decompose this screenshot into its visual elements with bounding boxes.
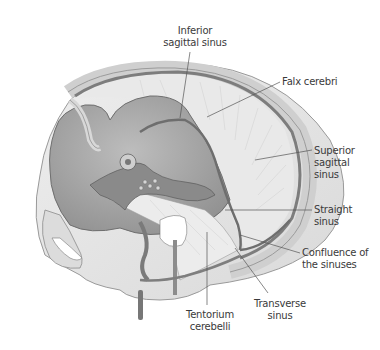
label-inferior-sagittal-sinus: Inferior sagittal sinus — [155, 25, 235, 49]
label-straight-sinus: Straight sinus — [314, 204, 352, 228]
label-transverse-sinus: Transverse sinus — [245, 298, 315, 322]
label-confluence-of-the-sinuses: Confluence of the sinuses — [302, 247, 368, 271]
label-superior-sagittal-sinus: Superior sagittal sinus — [314, 145, 355, 181]
label-falx-cerebri: Falx cerebri — [282, 76, 337, 88]
label-tentorium-cerebelli: Tentorium cerebelli — [175, 309, 245, 333]
